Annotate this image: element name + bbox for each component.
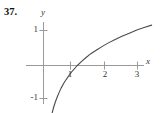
x-tick-label-2: 2 <box>99 70 111 79</box>
x-tick-label-3: 3 <box>131 70 143 79</box>
y-tick-label-neg1: -1 <box>22 93 38 102</box>
y-axis-label: y <box>41 8 45 17</box>
x-axis-label: x <box>146 57 150 66</box>
y-tick-label-1: 1 <box>26 25 38 34</box>
x-tick-label-1: 1 <box>64 70 76 79</box>
